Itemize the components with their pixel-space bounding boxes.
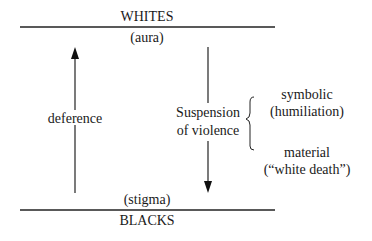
- humiliation-label: (humiliation): [257, 105, 357, 119]
- arrow-up-icon: [71, 47, 79, 59]
- white-death-label: (“white death”): [257, 163, 357, 177]
- suspension-label-1: Suspension: [168, 106, 248, 120]
- stigma-label: (stigma): [107, 193, 187, 207]
- suspension-label-2: of violence: [168, 124, 248, 138]
- arrow-down-icon: [204, 181, 212, 193]
- deference-label: deference: [35, 112, 115, 126]
- aura-label: (aura): [107, 31, 187, 45]
- whites-label: WHITES: [107, 10, 187, 24]
- symbolic-label: symbolic: [257, 88, 357, 102]
- material-label: material: [257, 146, 357, 160]
- blacks-label: BLACKS: [107, 214, 187, 228]
